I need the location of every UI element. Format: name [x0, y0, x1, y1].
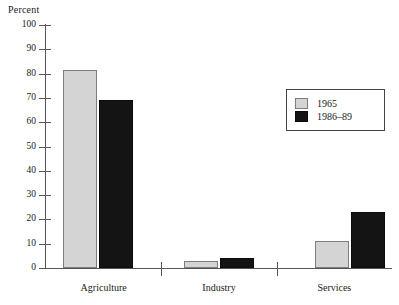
y-tick-80: [39, 74, 51, 75]
bar-chart: Percent 1009080706050403020100 Agricultu…: [0, 0, 399, 305]
y-tick-20: [39, 219, 51, 220]
y-tick-label-20: 20: [6, 214, 36, 224]
y-tick-70: [39, 98, 51, 99]
y-tick-label-10: 10: [6, 239, 36, 249]
legend-label-1986-89: 1986–89: [317, 111, 352, 122]
bar-industry-1986-89: [220, 258, 254, 268]
y-axis-title: Percent: [8, 4, 39, 15]
y-tick-30: [39, 195, 51, 196]
separator-tick-2: [277, 262, 278, 276]
y-tick-40: [39, 171, 51, 172]
y-tick-50: [39, 147, 51, 148]
category-label-agriculture: Agriculture: [44, 282, 164, 293]
x-axis-line: [45, 268, 392, 269]
y-tick-label-90: 90: [6, 44, 36, 54]
chart-legend: 1965 1986–89: [286, 89, 385, 131]
y-tick-label-30: 30: [6, 190, 36, 200]
y-tick-label-60: 60: [6, 117, 36, 127]
legend-swatch-1986-89: [295, 111, 308, 122]
y-tick-60: [39, 122, 51, 123]
bar-agriculture-1965: [63, 70, 97, 268]
y-tick-label-40: 40: [6, 166, 36, 176]
legend-swatch-1965: [295, 98, 308, 109]
legend-label-1965: 1965: [317, 98, 337, 109]
separator-tick-1: [161, 262, 162, 276]
y-tick-100: [39, 25, 51, 26]
y-tick-90: [39, 49, 51, 50]
category-label-services: Services: [274, 282, 394, 293]
category-label-industry: Industry: [159, 282, 279, 293]
bar-services-1965: [315, 241, 349, 268]
y-tick-label-0: 0: [6, 263, 36, 273]
y-tick-10: [39, 244, 51, 245]
y-tick-0: [39, 268, 51, 269]
y-tick-label-50: 50: [6, 142, 36, 152]
y-tick-label-70: 70: [6, 93, 36, 103]
bar-services-1986-89: [351, 212, 385, 268]
y-tick-label-80: 80: [6, 69, 36, 79]
legend-item: 1986–89: [295, 111, 376, 122]
bar-industry-1965: [184, 261, 218, 268]
legend-item: 1965: [295, 98, 376, 109]
bar-agriculture-1986-89: [99, 100, 133, 268]
y-tick-label-100: 100: [6, 20, 36, 30]
